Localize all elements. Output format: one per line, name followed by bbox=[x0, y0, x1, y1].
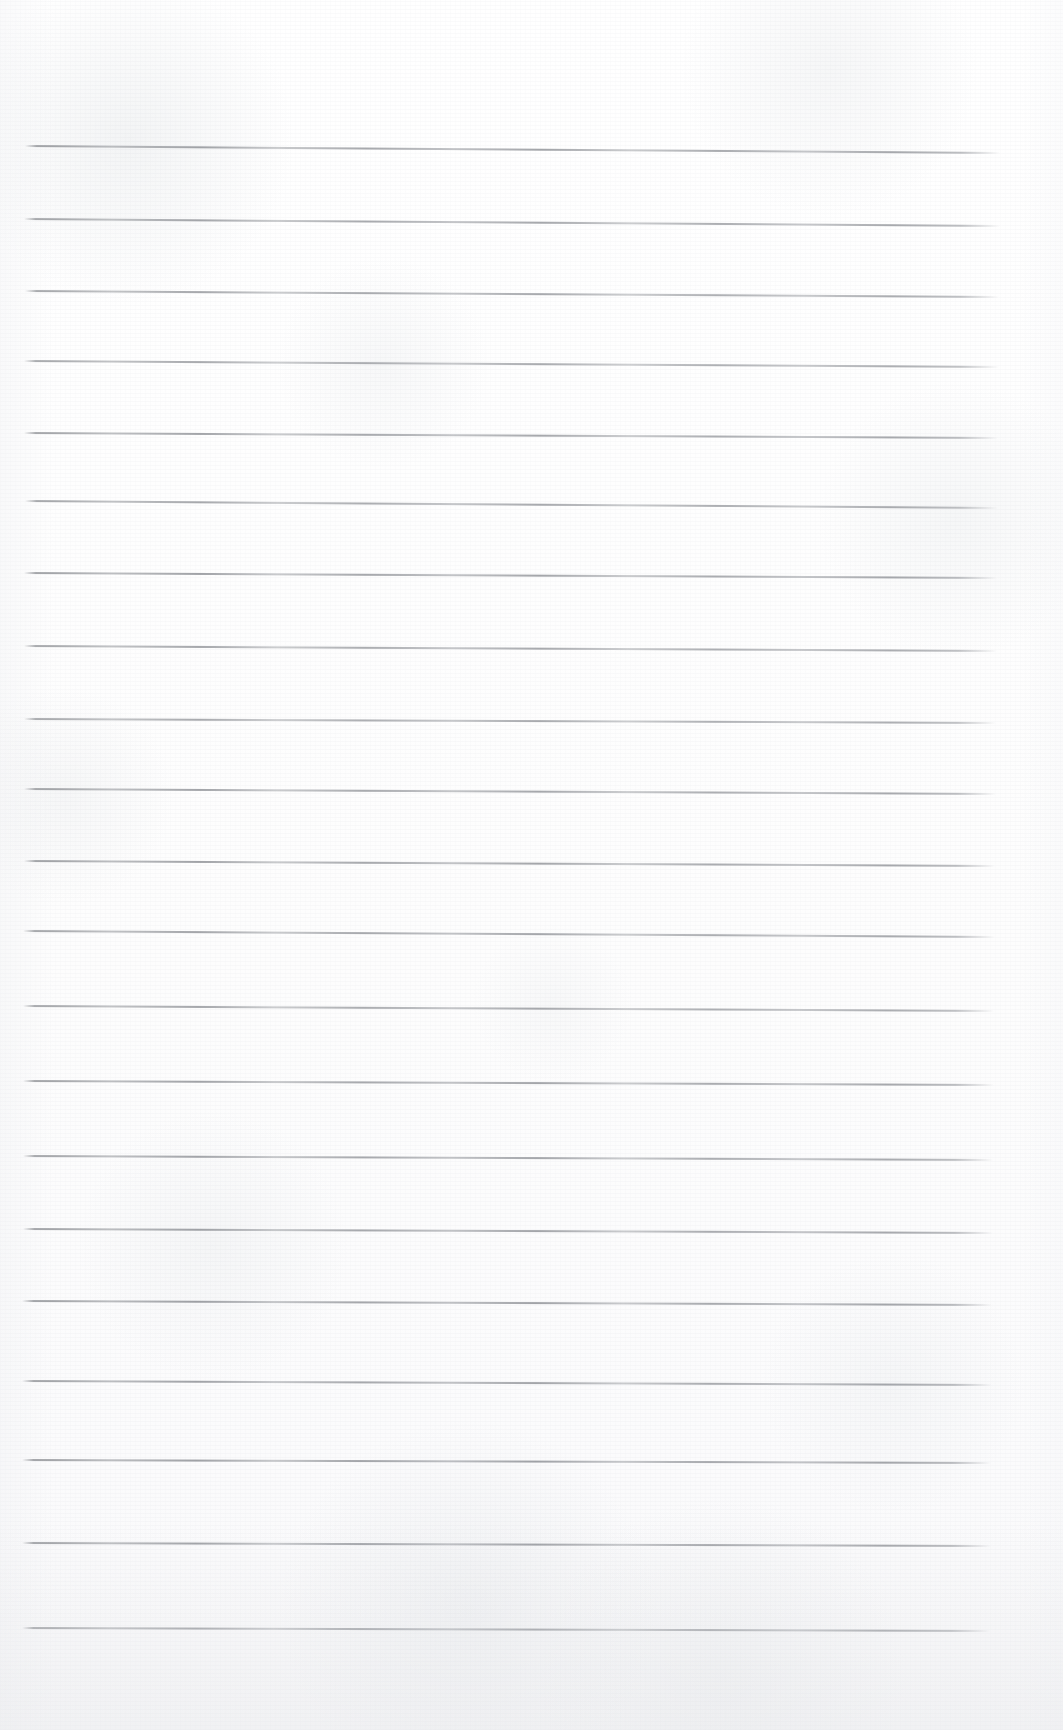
ruled-line-ink bbox=[23, 1005, 994, 1011]
ruled-line bbox=[22, 1627, 990, 1632]
ruled-line-ink bbox=[23, 930, 995, 937]
ruled-line-ink bbox=[22, 1300, 992, 1306]
ruled-line-ink bbox=[22, 1627, 990, 1632]
ruled-line bbox=[23, 1155, 993, 1161]
ruled-line bbox=[23, 930, 995, 937]
ruled-line bbox=[24, 218, 1000, 226]
ruled-line-ink bbox=[22, 1380, 992, 1386]
ruled-line bbox=[22, 1380, 992, 1386]
ruled-line bbox=[24, 860, 995, 866]
ruled-line bbox=[23, 1080, 994, 1086]
ruled-line-ink bbox=[24, 788, 996, 794]
ruled-line bbox=[24, 718, 996, 723]
ruled-line bbox=[24, 572, 997, 578]
ruled-line bbox=[24, 360, 999, 367]
ruled-line-ink bbox=[24, 360, 999, 367]
ruled-line bbox=[22, 1459, 991, 1464]
ruled-line-ink bbox=[22, 1459, 991, 1464]
ruled-line bbox=[23, 1228, 993, 1234]
ruled-line-ink bbox=[24, 572, 997, 578]
ruled-line-ink bbox=[23, 1080, 994, 1086]
ruled-line bbox=[23, 1005, 994, 1011]
ruled-line bbox=[24, 432, 998, 438]
ruled-line-ink bbox=[24, 860, 995, 866]
ruled-line bbox=[24, 788, 996, 794]
ruled-line-ink bbox=[24, 645, 997, 651]
ruled-line bbox=[25, 290, 999, 297]
ruled-lines-group bbox=[0, 0, 1063, 1730]
ruled-line-ink bbox=[22, 1542, 991, 1547]
ruled-line-ink bbox=[24, 432, 998, 438]
ruled-line bbox=[22, 1300, 992, 1306]
ruled-line bbox=[25, 145, 1000, 153]
ruled-line bbox=[25, 500, 998, 508]
ruled-line bbox=[24, 645, 997, 651]
ruled-line-ink bbox=[25, 145, 1000, 153]
ruled-line-ink bbox=[24, 218, 1000, 226]
ruled-line-ink bbox=[23, 1155, 993, 1161]
ruled-line-ink bbox=[24, 718, 996, 723]
ruled-line-ink bbox=[25, 290, 999, 297]
ruled-line bbox=[22, 1542, 991, 1547]
ruled-line-ink bbox=[23, 1228, 993, 1234]
scanned-page bbox=[0, 0, 1063, 1730]
ruled-line-ink bbox=[25, 500, 998, 508]
